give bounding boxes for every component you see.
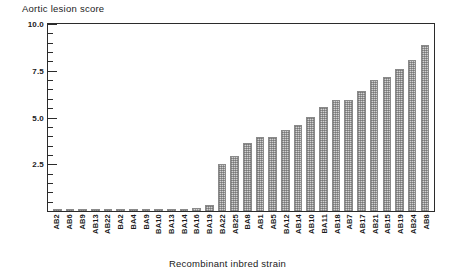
bar-cell	[241, 24, 254, 211]
y-axis-minor-tick	[48, 89, 53, 90]
bar	[167, 209, 176, 211]
y-axis-minor-tick	[48, 136, 53, 137]
bar-cell	[89, 24, 102, 211]
y-axis-major-tick	[48, 24, 57, 25]
x-axis-tick-label: BA19	[205, 214, 214, 234]
bar-cell	[342, 24, 355, 211]
x-axis-tick-cell: AB1	[254, 214, 267, 256]
x-axis-tick-label: BA13	[166, 214, 175, 234]
x-axis-tick-cell: AB7	[343, 214, 356, 256]
bar	[256, 137, 265, 211]
y-axis-major-tick	[48, 71, 57, 72]
x-axis-tick-label: BA2	[116, 214, 125, 230]
bar-cell	[114, 24, 127, 211]
y-axis-minor-tick	[48, 202, 53, 203]
bar	[230, 156, 239, 211]
x-axis-tick-label: AB18	[332, 214, 341, 234]
bar	[104, 209, 113, 211]
y-axis-minor-tick	[48, 43, 53, 44]
bar-cell	[418, 24, 431, 211]
bar-cell	[304, 24, 317, 211]
bar	[306, 117, 315, 211]
x-axis-tick-cell: AB5	[266, 214, 279, 256]
x-axis-tick-cell: AB17	[356, 214, 369, 256]
x-axis-tick-cell: AB13	[88, 214, 101, 256]
y-axis-major-tick	[48, 118, 57, 119]
x-axis-tick-cell: BA16	[190, 214, 203, 256]
x-axis-tick-label: BA11	[319, 214, 328, 234]
bar-cell	[355, 24, 368, 211]
bar	[154, 209, 163, 211]
x-axis-tick-cell: BA4	[126, 214, 139, 256]
y-axis-minor-tick	[48, 61, 53, 62]
x-axis-tick-cell: AB19	[394, 214, 407, 256]
bar-cell	[368, 24, 381, 211]
bar	[319, 107, 328, 211]
x-axis-tick-cell: BA19	[203, 214, 216, 256]
x-axis-tick-label: AB21	[370, 214, 379, 234]
x-axis-tick-label: BA4	[128, 214, 137, 230]
y-axis-minor-tick	[48, 99, 53, 100]
bar	[180, 209, 189, 211]
bar	[205, 205, 214, 211]
bar-series	[48, 24, 434, 211]
x-axis-tick-cell: BA22	[216, 214, 229, 256]
bar	[357, 91, 366, 211]
x-axis-tick-label: AB8	[421, 214, 430, 230]
x-axis-tick-label: BA16	[192, 214, 201, 234]
bar	[218, 164, 227, 211]
x-axis-tick-label: AB9	[77, 214, 86, 230]
x-axis-title: Recombinant inbred strain	[0, 258, 455, 269]
x-axis-tick-cell: AB6	[63, 214, 76, 256]
x-axis-tick-label: BA8	[243, 214, 252, 230]
bar	[370, 80, 379, 211]
bar-cell	[393, 24, 406, 211]
x-axis-tick-label: AB22	[103, 214, 112, 234]
bar	[116, 209, 125, 211]
y-axis-tick-label: 7.5	[32, 66, 44, 75]
x-axis-tick-cell: AB25	[228, 214, 241, 256]
bar	[129, 209, 138, 211]
y-axis-tick-label: 2.5	[32, 160, 44, 169]
x-axis-tick-cell: BA2	[114, 214, 127, 256]
bar	[192, 208, 201, 211]
x-axis-tick-cell: BA9	[139, 214, 152, 256]
bar-cell	[330, 24, 343, 211]
bar-cell	[266, 24, 279, 211]
y-axis-tick-label: 10.0	[28, 20, 44, 29]
x-axis-tick-cell: AB21	[368, 214, 381, 256]
x-axis-tick-label: AB24	[408, 214, 417, 234]
bar-cell	[203, 24, 216, 211]
bar	[243, 143, 252, 211]
bar	[395, 69, 404, 211]
x-axis-tick-cell: AB15	[381, 214, 394, 256]
x-axis-tick-label: AB17	[357, 214, 366, 234]
x-axis-tick-cell: AB24	[407, 214, 420, 256]
x-axis-tick-labels: AB2AB6AB9AB13AB22BA2BA4BA9BA10BA13BA14BA…	[47, 214, 435, 256]
x-axis-tick-cell: BA10	[152, 214, 165, 256]
x-axis-tick-cell: AB8	[419, 214, 432, 256]
y-axis-minor-tick	[48, 192, 53, 193]
x-axis-tick-cell: BA8	[241, 214, 254, 256]
x-axis-tick-label: AB19	[396, 214, 405, 234]
x-axis-tick-label: AB2	[52, 214, 61, 230]
bar-cell	[64, 24, 77, 211]
bar	[53, 209, 62, 211]
bar	[344, 100, 353, 211]
bar	[66, 209, 75, 211]
bar-cell	[165, 24, 178, 211]
bar	[294, 125, 303, 211]
y-axis-minor-tick	[48, 80, 53, 81]
bar	[91, 209, 100, 211]
y-axis-title: Aortic lesion score	[22, 3, 104, 14]
bar	[332, 100, 341, 211]
bar-cell	[406, 24, 419, 211]
x-axis-tick-cell: AB18	[330, 214, 343, 256]
y-axis-major-tick	[48, 164, 57, 165]
y-axis-minor-tick	[48, 146, 53, 147]
bar-cell	[317, 24, 330, 211]
x-axis-tick-cell: AB14	[292, 214, 305, 256]
bar-cell	[178, 24, 191, 211]
x-axis-tick-label: AB1	[256, 214, 265, 230]
bar-cell	[140, 24, 153, 211]
